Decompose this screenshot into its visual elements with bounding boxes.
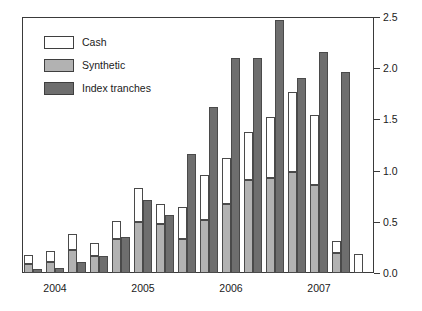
bar-cash-synthetic-stack [200, 175, 209, 273]
bar-segment-cash [200, 175, 209, 220]
legend-item-cash: Cash [44, 34, 194, 53]
bar-index-tranches [297, 78, 306, 273]
quarter-group [266, 17, 284, 273]
bar-segment-synthetic [46, 262, 55, 273]
bar-segment-cash [222, 158, 231, 204]
bar-segment-cash [46, 251, 55, 262]
bar-index-tranches [253, 58, 262, 273]
bar-segment-cash [24, 255, 33, 264]
bar-cash-synthetic-stack [332, 241, 341, 273]
legend-label-synthetic: Synthetic [82, 59, 125, 72]
chart-figure: 0.00.51.01.52.02.5 2004200520062007 Cash… [0, 0, 422, 311]
y-axis-tick [374, 17, 380, 18]
bar-cash-synthetic-stack [244, 132, 253, 273]
x-axis: 2004200520062007 [0, 273, 422, 311]
quarter-group [200, 17, 218, 273]
bar-cash-synthetic-stack [156, 204, 165, 273]
bar-segment-synthetic [178, 239, 187, 273]
y-axis: 0.00.51.01.52.02.5 [374, 0, 422, 311]
index-tranches-swatch [44, 82, 74, 95]
bar-index-tranches [165, 215, 174, 273]
bar-segment-cash [156, 204, 165, 223]
bar-segment-synthetic [222, 204, 231, 273]
bar-segment-cash [90, 243, 99, 255]
bar-segment-synthetic [156, 224, 165, 273]
bar-segment-synthetic [310, 185, 319, 273]
bar-cash-synthetic-stack [112, 221, 121, 273]
y-axis-tick [374, 68, 380, 69]
quarter-group [354, 17, 372, 273]
bar-cash-synthetic-stack [90, 243, 99, 273]
bar-cash-synthetic-stack [354, 254, 363, 273]
bar-segment-cash [332, 241, 341, 252]
bar-index-tranches [319, 52, 328, 273]
bar-segment-synthetic [288, 172, 297, 273]
bar-segment-cash [68, 234, 77, 250]
bar-cash-synthetic-stack [266, 117, 275, 273]
bar-segment-cash [112, 221, 121, 239]
bar-cash-synthetic-stack [24, 255, 33, 273]
bar-index-tranches [275, 20, 284, 273]
bar-segment-cash [178, 207, 187, 239]
x-axis-tick-label: 2006 [219, 283, 242, 294]
bar-index-tranches [209, 107, 218, 273]
bar-segment-cash [354, 254, 363, 273]
bar-index-tranches [99, 256, 108, 273]
bar-segment-cash [288, 92, 297, 172]
y-axis-tick-label: 1.5 [383, 114, 398, 125]
quarter-group [332, 17, 350, 273]
y-axis-tick [374, 222, 380, 223]
bar-segment-synthetic [244, 180, 253, 273]
x-axis-tick-label: 2004 [43, 283, 66, 294]
bar-index-tranches [341, 72, 350, 273]
legend-item-index-tranches: Index tranches [44, 80, 194, 99]
legend-item-synthetic: Synthetic [44, 57, 194, 76]
bar-cash-synthetic-stack [288, 92, 297, 273]
x-axis-tick-label: 2007 [307, 283, 330, 294]
bar-cash-synthetic-stack [310, 115, 319, 273]
bar-cash-synthetic-stack [134, 188, 143, 273]
quarter-group [222, 17, 240, 273]
legend-label-cash: Cash [82, 36, 107, 49]
bar-segment-synthetic [134, 222, 143, 273]
synthetic-swatch [44, 59, 74, 72]
bar-segment-synthetic [266, 178, 275, 273]
bar-cash-synthetic-stack [178, 207, 187, 273]
bar-index-tranches [77, 262, 86, 273]
bar-segment-synthetic [24, 264, 33, 273]
cash-swatch [44, 36, 74, 49]
bar-segment-cash [310, 115, 319, 185]
bar-cash-synthetic-stack [46, 250, 55, 273]
bar-index-tranches [187, 154, 196, 273]
bar-index-tranches [143, 200, 152, 273]
y-axis-tick-label: 1.0 [383, 166, 398, 177]
bar-segment-synthetic [332, 253, 341, 273]
bar-index-tranches [231, 58, 240, 273]
chart-legend: Cash Synthetic Index tranches [44, 34, 194, 103]
x-axis-tick-label: 2005 [131, 283, 154, 294]
y-axis-tick-label: 2.5 [383, 12, 398, 23]
bar-segment-cash [134, 188, 143, 222]
quarter-group [310, 17, 328, 273]
bar-segment-synthetic [68, 250, 77, 273]
y-axis-tick-label: 2.0 [383, 63, 398, 74]
y-axis-tick-label: 0.5 [383, 217, 398, 228]
bar-segment-synthetic [90, 256, 99, 273]
bar-segment-cash [244, 132, 253, 180]
bar-cash-synthetic-stack [68, 234, 77, 273]
quarter-group [24, 17, 42, 273]
bar-segment-cash [266, 117, 275, 177]
quarter-group [288, 17, 306, 273]
bar-segment-synthetic [112, 239, 121, 273]
legend-label-index-tranches: Index tranches [82, 82, 151, 95]
bar-cash-synthetic-stack [222, 158, 231, 273]
y-axis-tick [374, 171, 380, 172]
bar-index-tranches [121, 237, 130, 273]
quarter-group [244, 17, 262, 273]
y-axis-tick [374, 119, 380, 120]
bar-segment-synthetic [200, 220, 209, 273]
